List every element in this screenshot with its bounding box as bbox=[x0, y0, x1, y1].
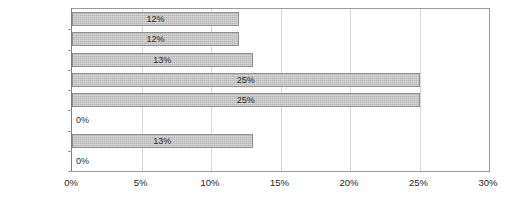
bar-chart: 12%12%13%25%25%0%13%0% HaminaIittiKotkaK… bbox=[0, 0, 519, 207]
y-axis-tick bbox=[68, 50, 72, 51]
bar-value-label: 13% bbox=[72, 134, 253, 148]
bar-value-label: 12% bbox=[72, 12, 239, 26]
bar-row: 13% bbox=[72, 131, 489, 151]
bar-value-label: 25% bbox=[72, 93, 420, 107]
gridline-30pct bbox=[489, 9, 490, 171]
x-tick-label-30pct: 30% bbox=[468, 177, 508, 188]
bar-value-label: 0% bbox=[76, 113, 89, 127]
y-axis-tick bbox=[68, 29, 72, 30]
bar-row: 13% bbox=[72, 50, 489, 70]
bar-value-label: 12% bbox=[72, 32, 239, 46]
bar-row: 0% bbox=[72, 110, 489, 130]
y-axis-tick bbox=[68, 70, 72, 71]
bar-row: 12% bbox=[72, 9, 489, 29]
x-tick-label-25pct: 25% bbox=[399, 177, 439, 188]
bar-row: 12% bbox=[72, 29, 489, 49]
y-axis-tick bbox=[68, 171, 72, 172]
x-tick-label-5pct: 5% bbox=[121, 177, 161, 188]
y-axis-tick bbox=[68, 110, 72, 111]
bar-value-label: 25% bbox=[72, 73, 420, 87]
plot-area: 12%12%13%25%25%0%13%0% bbox=[71, 8, 490, 172]
y-axis-tick bbox=[68, 90, 72, 91]
bar-row: 25% bbox=[72, 70, 489, 90]
y-axis-tick bbox=[68, 151, 72, 152]
x-tick-label-20pct: 20% bbox=[329, 177, 369, 188]
bar-rows: 12%12%13%25%25%0%13%0% bbox=[72, 9, 489, 171]
bar-row: 0% bbox=[72, 151, 489, 171]
bar-row: 25% bbox=[72, 90, 489, 110]
x-tick-label-10pct: 10% bbox=[190, 177, 230, 188]
x-tick-label-0pct: 0% bbox=[51, 177, 91, 188]
x-tick-label-15pct: 15% bbox=[260, 177, 300, 188]
bar-value-label: 0% bbox=[76, 154, 89, 168]
y-axis-tick bbox=[68, 131, 72, 132]
bar-value-label: 13% bbox=[72, 53, 253, 67]
